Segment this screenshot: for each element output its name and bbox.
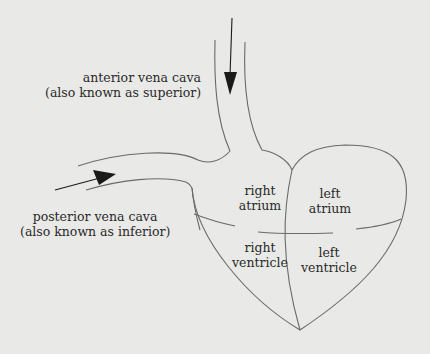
heart-diagram (0, 0, 430, 354)
right-atrium-line1: right (235, 183, 285, 198)
anterior-vena-cava-label: anterior vena cava (also known as superi… (45, 70, 201, 100)
svc-left-wall (215, 40, 230, 151)
right-ventricle-line2: ventricle (225, 255, 295, 270)
av-line-middle (258, 232, 333, 234)
anterior-line2: (also known as superior) (45, 85, 201, 100)
inferior-arrow-icon (55, 170, 116, 190)
right-ventricle-line1: right (225, 240, 295, 255)
ivc-upper-wall (78, 151, 230, 166)
left-ventricle-line1: left (294, 245, 364, 260)
superior-arrow-icon (224, 18, 237, 95)
posterior-line1: posterior vena cava (20, 209, 170, 224)
right-ventricle-label: right ventricle (225, 240, 295, 270)
anterior-line1: anterior vena cava (45, 70, 201, 85)
posterior-vena-cava-label: posterior vena cava (also known as infer… (20, 209, 170, 239)
posterior-line2: (also known as inferior) (20, 224, 170, 239)
left-atrium-label: left atrium (305, 186, 355, 216)
left-ventricle-label: left ventricle (294, 245, 364, 275)
heart-outline (192, 145, 406, 330)
right-atrium-label: right atrium (235, 183, 285, 213)
left-atrium-line1: left (305, 186, 355, 201)
right-atrium-line2: atrium (235, 198, 285, 213)
av-line-left (356, 219, 401, 229)
left-ventricle-line2: ventricle (294, 260, 364, 275)
svc-right-wall (245, 42, 292, 170)
left-atrium-line2: atrium (305, 201, 355, 216)
